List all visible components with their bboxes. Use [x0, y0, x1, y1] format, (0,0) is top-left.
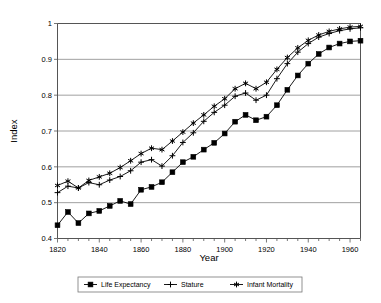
- data-point-marker: [55, 223, 60, 228]
- series-infant-mortality: [55, 23, 363, 190]
- x-tick-label: 1960: [342, 245, 359, 254]
- data-point-marker: [222, 131, 227, 136]
- data-point-marker: [65, 178, 70, 184]
- legend-label: Life Expectancy: [101, 281, 151, 289]
- data-point-marker: [348, 39, 353, 44]
- data-point-marker: [97, 174, 102, 180]
- y-tick-label: 0.7: [42, 127, 52, 136]
- data-point-marker: [97, 209, 102, 214]
- x-tick-label: 1860: [133, 245, 150, 254]
- legend-label: Infant Mortality: [247, 281, 293, 289]
- x-tick-label: 1820: [49, 245, 66, 254]
- data-point-marker: [201, 147, 206, 152]
- data-point-marker: [55, 190, 61, 196]
- data-point-marker: [253, 97, 259, 103]
- data-point-marker: [243, 112, 248, 117]
- data-point-marker: [212, 103, 217, 109]
- data-point-marker: [76, 221, 81, 226]
- data-point-marker: [327, 45, 332, 50]
- data-point-marker: [128, 158, 133, 164]
- data-point-marker: [358, 38, 363, 43]
- data-point-marker: [66, 210, 71, 215]
- y-tick-label: 0.5: [42, 198, 52, 207]
- data-point-marker: [285, 87, 290, 92]
- data-point-marker: [118, 165, 123, 171]
- data-point-marker: [139, 151, 144, 157]
- y-axis-title: Index: [8, 119, 19, 142]
- y-tick-label: 0.4: [42, 234, 52, 243]
- data-point-marker: [96, 182, 102, 188]
- data-point-marker: [128, 202, 133, 207]
- data-point-marker: [275, 103, 280, 108]
- data-point-marker: [118, 198, 123, 203]
- data-point-marker: [274, 76, 280, 82]
- data-point-marker: [170, 170, 175, 175]
- line-chart: 0.40.50.60.70.80.91 18201840186018801900…: [0, 0, 381, 303]
- data-point-marker: [160, 180, 165, 185]
- data-point-marker: [149, 157, 155, 163]
- x-tick-label: 1940: [300, 245, 317, 254]
- series-life-expectancy: [55, 38, 363, 227]
- data-point-marker: [107, 170, 112, 176]
- y-tick-label: 0.6: [42, 163, 52, 172]
- data-point-marker: [212, 140, 217, 145]
- chart-legend: Life ExpectancyStatureInfant Mortality: [78, 277, 302, 292]
- data-point-marker: [254, 86, 259, 92]
- series-polyline: [58, 41, 361, 226]
- data-point-marker: [191, 154, 196, 159]
- chart-figure: 0.40.50.60.70.80.91 18201840186018801900…: [0, 0, 381, 303]
- data-point-marker: [243, 80, 248, 86]
- x-tick-label: 1920: [258, 245, 275, 254]
- data-point-marker: [180, 160, 185, 165]
- legend-label: Stature: [181, 281, 204, 288]
- x-axis-title: Year: [199, 252, 218, 263]
- data-point-marker: [233, 119, 238, 124]
- x-tick-label: 1900: [216, 245, 233, 254]
- data-point-marker: [254, 118, 259, 123]
- data-point-marker: [316, 52, 321, 57]
- data-point-marker: [201, 112, 206, 118]
- y-tick-label: 0.8: [42, 91, 52, 100]
- data-series: [55, 23, 364, 227]
- x-tick-label: 1880: [175, 245, 192, 254]
- data-point-marker: [107, 203, 112, 208]
- data-point-marker: [264, 114, 269, 119]
- data-point-marker: [264, 92, 270, 98]
- data-point-marker: [149, 185, 154, 190]
- legend-marker-filled-square: [88, 282, 93, 287]
- data-point-marker: [86, 211, 91, 216]
- data-point-marker: [65, 183, 71, 189]
- data-point-marker: [117, 174, 123, 180]
- data-point-marker: [337, 41, 342, 46]
- x-tick-label: 1840: [91, 245, 108, 254]
- data-point-marker: [306, 61, 311, 66]
- data-point-marker: [295, 73, 300, 78]
- series-polyline: [58, 26, 361, 188]
- y-axis: 0.40.50.60.70.80.91: [42, 19, 58, 243]
- y-tick-label: 1: [48, 19, 52, 28]
- data-point-marker: [107, 177, 113, 183]
- y-tick-label: 0.9: [42, 55, 52, 64]
- data-point-marker: [139, 187, 144, 192]
- data-point-marker: [55, 183, 60, 189]
